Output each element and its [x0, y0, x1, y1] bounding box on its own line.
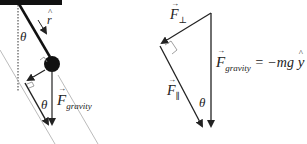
theta-right-label: θ [199, 96, 205, 109]
f-gravity-left-label: Fgravity [57, 93, 92, 108]
pendulum-bob [44, 56, 60, 72]
gravity-equation: Fgravity = −mg y [216, 55, 304, 70]
f-symbol: F [216, 55, 225, 70]
f-symbol: F [170, 8, 179, 22]
f-parallel-label: F∥ [167, 84, 180, 98]
gravity-subscript: gravity [66, 101, 92, 111]
parallel-subscript: ∥ [176, 91, 180, 101]
perpendicular-force-arrow [28, 70, 45, 80]
equation-rhs: = −mg [254, 55, 294, 70]
gravity-subscript: gravity [225, 63, 251, 73]
f-symbol: F [167, 84, 176, 98]
f-symbol: F [57, 93, 66, 108]
r-hat-label: r [47, 14, 52, 26]
ceiling-bar [0, 0, 62, 5]
y-hat-symbol: y [298, 55, 305, 70]
r-hat-symbol: r [47, 14, 52, 26]
r-hat-arrow [38, 20, 46, 33]
theta-top-label: θ [20, 30, 26, 43]
theta-bottom-label: θ [41, 98, 47, 111]
f-perp-label: F⊥ [170, 8, 187, 22]
perp-subscript: ⊥ [179, 15, 187, 25]
